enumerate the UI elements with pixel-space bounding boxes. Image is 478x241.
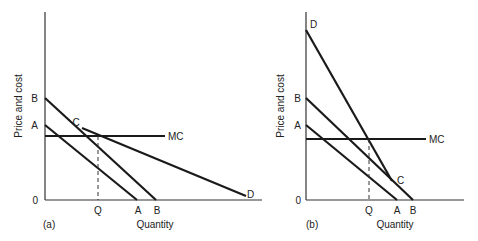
x-label-q: Q: [94, 205, 102, 216]
x-label-b: B: [410, 205, 417, 216]
demand-line-b: [45, 98, 156, 200]
panel-b: D B A 0 MC C Q A B (b) Quantity Price an…: [275, 12, 464, 230]
x-label-b: B: [154, 205, 161, 216]
demand-line-d: [306, 30, 392, 181]
y-axis-title: Price and cost: [275, 74, 286, 138]
point-c-label: C: [397, 175, 404, 186]
d-label: D: [247, 189, 254, 200]
x-label-a: A: [135, 205, 142, 216]
point-c-label: C: [72, 117, 79, 128]
panel-caption: (b): [306, 219, 318, 230]
y-label-a: A: [31, 120, 38, 131]
demand-line-a: [306, 125, 397, 200]
y-label-a: A: [294, 120, 301, 131]
panel-a: B A 0 C MC D Q A B (a) Quantity Price an…: [13, 12, 262, 230]
origin-label: 0: [32, 195, 38, 206]
mc-label: MC: [168, 131, 184, 142]
x-label-a: A: [394, 205, 401, 216]
diagram: B A 0 C MC D Q A B (a) Quantity Price an…: [0, 0, 478, 241]
y-label-b: B: [31, 93, 38, 104]
mc-label: MC: [429, 134, 445, 145]
y-axis-title: Price and cost: [13, 74, 24, 138]
y-label-d: D: [310, 19, 317, 30]
x-axis-title: Quantity: [376, 219, 413, 230]
y-label-b: B: [294, 93, 301, 104]
origin-label: 0: [295, 195, 301, 206]
demand-line-d: [82, 128, 246, 196]
x-axis-title: Quantity: [136, 219, 173, 230]
panel-caption: (a): [43, 219, 55, 230]
x-label-q: Q: [365, 205, 373, 216]
